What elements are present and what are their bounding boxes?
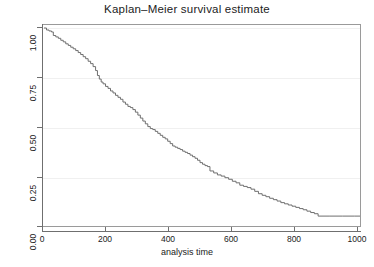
- x-tick-label-1000: 1000: [337, 234, 374, 244]
- chart-title: Kaplan–Meier survival estimate: [0, 3, 374, 15]
- x-tick-mark-600: [231, 227, 232, 232]
- x-tick-mark-400: [168, 227, 169, 232]
- y-tick-label-0-25: 0.25: [28, 178, 38, 208]
- x-tick-label-0: 0: [22, 234, 62, 244]
- x-axis-line: [42, 231, 361, 232]
- x-tick-mark-800: [294, 227, 295, 232]
- y-tick-label-0-75: 0.75: [28, 78, 38, 108]
- x-tick-mark-1000: [357, 227, 358, 232]
- x-tick-label-400: 400: [148, 234, 188, 244]
- plot-area: [42, 24, 361, 227]
- kaplan-meier-figure: Kaplan–Meier survival estimate 1.00 0.75…: [0, 0, 374, 267]
- x-tick-label-600: 600: [211, 234, 251, 244]
- x-axis-title: analysis time: [0, 247, 374, 257]
- y-tick-label-0-50: 0.50: [28, 128, 38, 158]
- x-tick-mark-0: [42, 227, 43, 232]
- y-axis-line: [42, 24, 43, 227]
- y-tick-label-1-00: 1.00: [28, 28, 38, 58]
- x-tick-mark-200: [105, 227, 106, 232]
- x-tick-label-200: 200: [85, 234, 125, 244]
- x-tick-label-800: 800: [274, 234, 314, 244]
- survival-curve: [43, 25, 361, 227]
